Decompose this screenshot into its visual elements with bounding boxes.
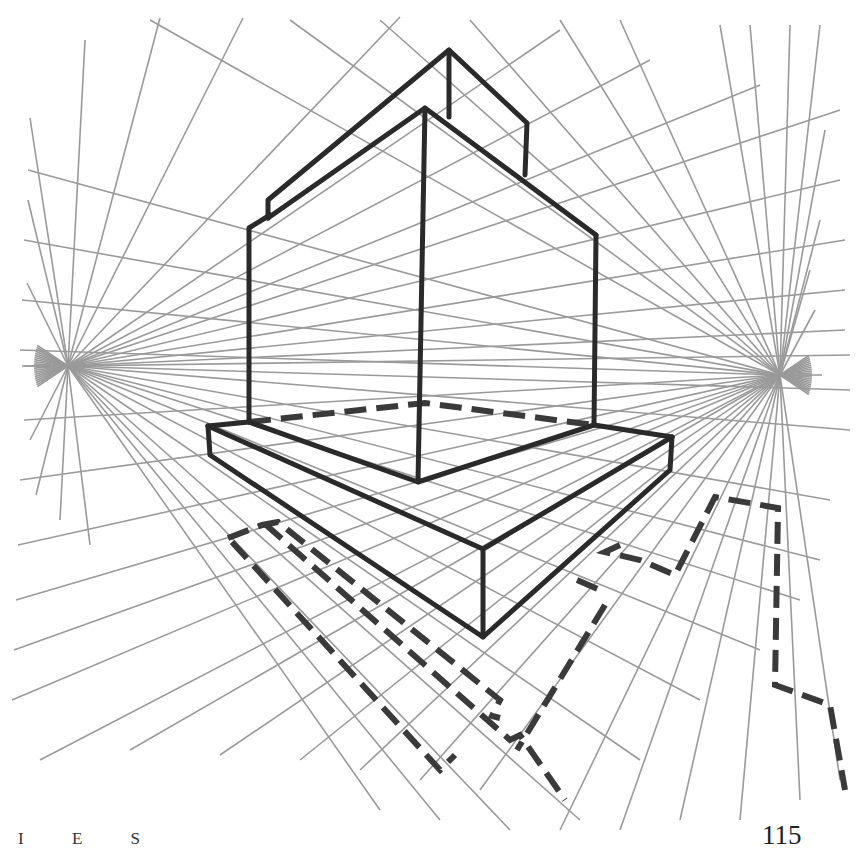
running-header: I E S — [18, 829, 162, 849]
guide-line — [620, 20, 780, 375]
guide-line — [68, 18, 160, 366]
guide-line — [28, 170, 780, 375]
guide-line — [290, 20, 780, 375]
guide-line — [68, 30, 560, 366]
guide-line — [780, 25, 820, 375]
guide-line — [68, 85, 760, 366]
solid-edge — [594, 425, 672, 437]
guide-line — [68, 366, 700, 700]
page-number: 115 — [762, 820, 802, 851]
solid-edge — [249, 422, 594, 482]
guide-line — [68, 180, 840, 366]
guide-line — [24, 375, 780, 420]
solid-edge — [594, 235, 596, 425]
guide-line — [40, 375, 780, 760]
guide-line — [68, 366, 760, 650]
perspective-drawing — [0, 0, 857, 857]
guide-line — [60, 366, 68, 520]
guide-line — [68, 366, 440, 820]
guide-line — [28, 200, 68, 366]
guide-line — [68, 40, 85, 366]
guide-line — [420, 375, 780, 780]
guide-line — [680, 375, 780, 820]
guide-line — [20, 375, 780, 480]
guide-line — [380, 20, 780, 375]
solid-edge — [208, 422, 249, 426]
dashed-edge — [605, 497, 845, 790]
guide-line — [68, 366, 580, 820]
guide-line — [300, 375, 780, 760]
guide-line — [68, 17, 400, 366]
guide-line — [480, 375, 780, 790]
left-vanishing-point-guides — [24, 17, 850, 830]
guide-line — [720, 25, 780, 375]
guide-line — [780, 25, 790, 375]
solid-edge — [418, 108, 425, 482]
